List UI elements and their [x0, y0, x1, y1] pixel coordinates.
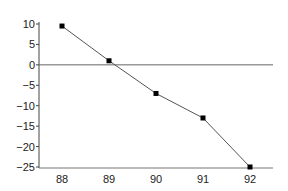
x-axis-ticks: 8889909192: [56, 173, 256, 185]
x-tick-label: 90: [150, 173, 162, 185]
x-tick-label: 92: [244, 173, 256, 185]
data-point-marker: [154, 91, 159, 96]
y-tick-label: −20: [16, 141, 35, 153]
y-tick-label: 10: [23, 18, 35, 30]
x-tick-label: 88: [56, 173, 68, 185]
data-point-marker: [201, 115, 206, 120]
y-tick-label: 0: [29, 59, 35, 71]
x-tick-label: 89: [103, 173, 115, 185]
data-point-marker: [248, 165, 253, 170]
data-point-marker: [107, 58, 112, 63]
series-line: [62, 26, 250, 167]
data-point-marker: [60, 24, 65, 29]
y-tick-label: −15: [16, 120, 35, 132]
y-tick-label: −10: [16, 100, 35, 112]
x-tick-label: 91: [197, 173, 209, 185]
y-axis-ticks: 1050−5−10−15−20−25: [16, 18, 39, 173]
line-chart: 1050−5−10−15−20−25 8889909192: [0, 0, 288, 191]
y-tick-label: 5: [29, 38, 35, 50]
y-tick-label: −5: [22, 79, 35, 91]
y-tick-label: −25: [16, 161, 35, 173]
